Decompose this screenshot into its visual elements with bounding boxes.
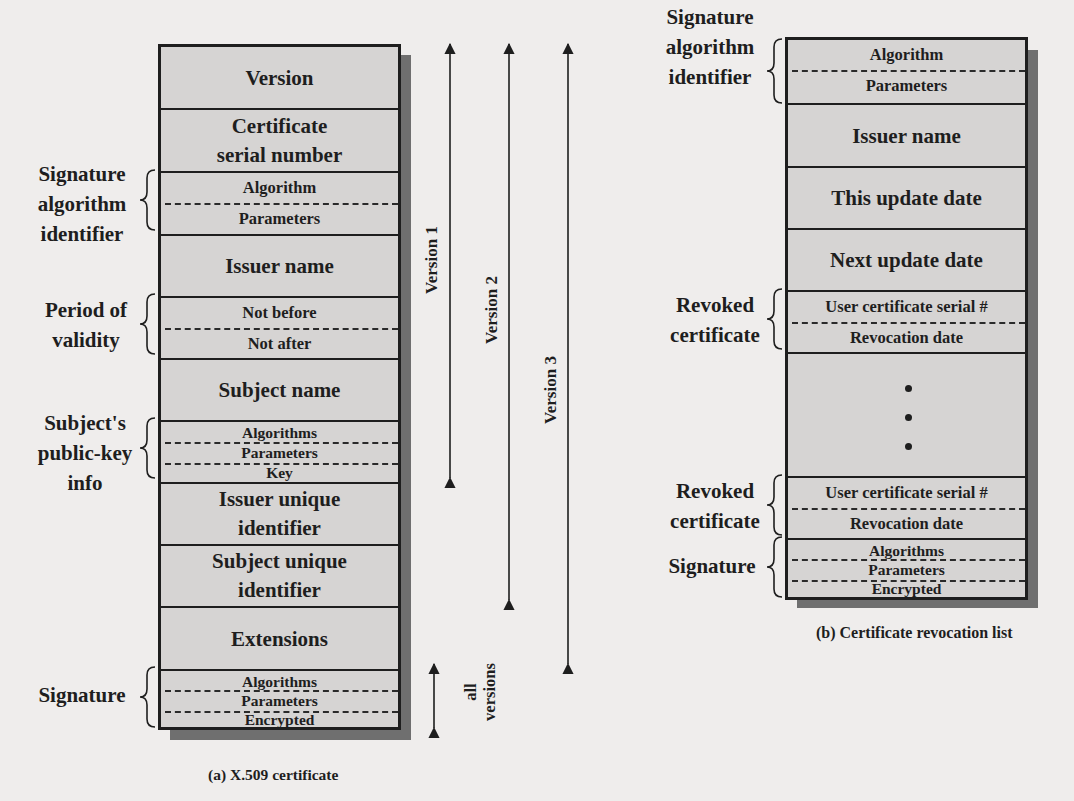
diagram-overlay: [0, 0, 1074, 801]
brace-icon: [140, 170, 155, 230]
brace-icon: [767, 289, 782, 349]
brace-icon: [140, 667, 155, 727]
brace-icon: [767, 537, 782, 597]
brace-icon: [767, 39, 782, 103]
brace-icon: [140, 418, 155, 478]
brace-icon: [140, 294, 155, 354]
brace-icon: [767, 475, 782, 535]
